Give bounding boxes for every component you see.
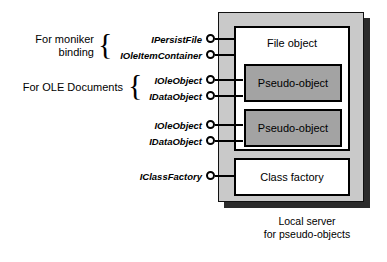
pseudo-object-box-1: Pseudo-object	[244, 64, 342, 102]
interface-label-ioleobject-2: IOleObject	[100, 120, 202, 131]
group-label-moniker-binding-line-1: For moniker	[10, 33, 94, 46]
connector-circle-idataobject-1[interactable]	[206, 91, 215, 100]
connector-circle-idataobject-2[interactable]	[206, 136, 215, 145]
interface-label-ioleitemcontainer: IOleItemContainer	[100, 50, 202, 61]
connector-stem-idataobject-1	[215, 95, 243, 97]
interface-label-ipersistfile: IPersistFile	[100, 34, 202, 45]
server-caption: Local server for pseudo-objects	[232, 215, 382, 241]
connector-stem-ioleitemcontainer	[215, 54, 235, 56]
local-server-container: File object Pseudo-object Pseudo-object …	[218, 12, 364, 202]
connector-circle-ioleobject-2[interactable]	[206, 120, 215, 129]
connector-stem-iclassfactory	[215, 175, 235, 177]
connector-circle-ioleobject-1[interactable]	[206, 75, 215, 84]
server-caption-line-1: Local server	[232, 215, 382, 228]
connector-stem-ipersistfile	[215, 38, 235, 40]
interface-label-idataobject-2: IDataObject	[100, 136, 202, 147]
interface-label-iclassfactory: IClassFactory	[100, 171, 202, 182]
file-object-label: File object	[236, 37, 348, 50]
connector-stem-idataobject-2	[215, 140, 243, 142]
connector-circle-iclassfactory[interactable]	[206, 171, 215, 180]
pseudo-object-box-2: Pseudo-object	[244, 109, 342, 147]
group-brace-ole-documents: {	[128, 70, 142, 100]
class-factory-label: Class factory	[260, 171, 324, 184]
group-label-moniker-binding: For moniker binding	[10, 33, 94, 59]
server-caption-line-2: for pseudo-objects	[232, 228, 382, 241]
group-label-moniker-binding-line-2: binding	[10, 46, 94, 59]
group-label-ole-documents: For OLE Documents	[8, 81, 123, 94]
connector-circle-ipersistfile[interactable]	[206, 34, 215, 43]
group-label-ole-documents-line-1: For OLE Documents	[8, 81, 123, 94]
diagram-canvas: File object Pseudo-object Pseudo-object …	[0, 0, 387, 262]
file-object-box: File object Pseudo-object Pseudo-object	[234, 26, 350, 151]
pseudo-object-label-1: Pseudo-object	[258, 77, 328, 90]
connector-stem-ioleobject-1	[215, 79, 243, 81]
pseudo-object-label-2: Pseudo-object	[258, 122, 328, 135]
group-brace-moniker-binding: {	[98, 29, 112, 59]
connector-stem-ioleobject-2	[215, 124, 243, 126]
class-factory-box: Class factory	[234, 158, 350, 196]
connector-circle-ioleitemcontainer[interactable]	[206, 50, 215, 59]
